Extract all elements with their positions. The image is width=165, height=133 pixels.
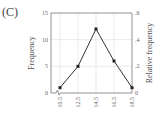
data-point-marker [131,86,134,89]
y-right-tick-label: 0 [135,90,138,96]
y-tick-label: 10 [42,37,48,43]
data-point-marker [95,28,98,31]
x-tick-label: 16.5 [111,97,117,108]
x-tick-label: 10.5 [57,97,63,108]
data-point-marker [77,65,80,68]
x-tick-label: 18.5 [129,97,135,108]
x-tick-label: 14.5 [93,97,99,108]
frequency-polygon-chart: 0510150.2.4.610.512.514.516.518.5Frequen… [0,0,165,133]
data-point-marker [113,60,116,63]
y-axis-label: Frequency [27,36,36,70]
y-right-tick-label: .4 [135,37,140,43]
plot-frame [51,13,132,93]
y-right-tick-label: .6 [135,10,140,16]
y-right-tick-label: .2 [135,63,140,69]
data-point-marker [59,86,62,89]
y-tick-label: 15 [42,10,48,16]
y-axis-right-label: Relative frequency [145,23,154,84]
y-tick-label: 5 [45,63,48,69]
y-tick-label: 0 [45,90,48,96]
x-tick-label: 12.5 [75,97,81,108]
